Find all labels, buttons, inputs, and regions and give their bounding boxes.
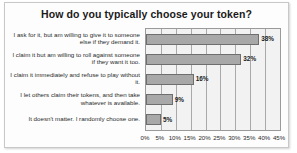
bar-row: 5% xyxy=(146,110,280,130)
category-axis: I ask for it, but am willing to give it … xyxy=(11,28,143,131)
category-label: I claim it but am willing to roll agains… xyxy=(10,51,140,66)
bar xyxy=(146,114,161,125)
bar xyxy=(146,34,259,45)
x-tick-label: 35% xyxy=(243,134,255,141)
x-tick-label: 0% xyxy=(141,134,150,141)
bar-row: 38% xyxy=(146,29,280,49)
x-tick-label: 20% xyxy=(198,134,210,141)
x-axis: 0%5%10%15%20%25%30%35%40%45% xyxy=(145,132,281,146)
bar-value-label: 32% xyxy=(243,55,256,62)
category-label: I ask for it, but am willing to give it … xyxy=(10,31,140,46)
chart-plot-wrapper: I ask for it, but am willing to give it … xyxy=(11,28,283,143)
x-tick-label: 15% xyxy=(184,134,196,141)
x-tick-label: 40% xyxy=(258,134,270,141)
category-label: I claim it immediately and refuse to pla… xyxy=(10,71,140,86)
plot-area: 38%32%16%9%5% xyxy=(145,28,281,131)
x-tick-label: 25% xyxy=(213,134,225,141)
category-label: I let others claim their tokens, and the… xyxy=(10,91,140,106)
chart-card: How do you typically choose your token? … xyxy=(4,2,289,148)
x-tick-label: 10% xyxy=(169,134,181,141)
bar xyxy=(146,54,241,65)
x-tick-label: 30% xyxy=(228,134,240,141)
bar xyxy=(146,94,173,105)
bar-row: 9% xyxy=(146,90,280,110)
bar-row: 16% xyxy=(146,69,280,89)
bar-value-label: 16% xyxy=(196,75,209,82)
bar-row: 32% xyxy=(146,49,280,69)
x-tick-label: 45% xyxy=(273,134,285,141)
bar-value-label: 9% xyxy=(175,96,184,103)
bar-value-label: 5% xyxy=(163,116,172,123)
category-label: It doesn't matter. I randomly choose one… xyxy=(10,115,140,122)
gridline xyxy=(280,29,281,130)
bar-value-label: 38% xyxy=(261,35,274,42)
bar xyxy=(146,74,194,85)
x-tick-label: 5% xyxy=(155,134,164,141)
chart-title: How do you typically choose your token? xyxy=(5,8,288,20)
